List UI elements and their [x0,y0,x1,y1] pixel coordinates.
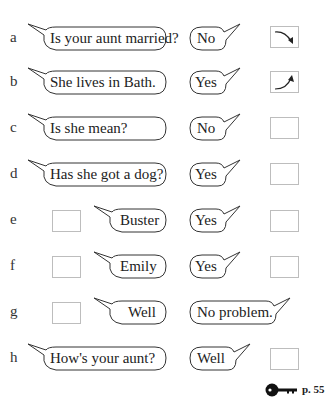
answer-box-left-f[interactable] [52,256,81,278]
answer-text-b: Yes [195,73,217,91]
question-text-c: Is she mean? [50,119,127,137]
row-letter-b: b [10,73,18,90]
falling-intonation-arrow-icon [271,27,298,47]
row-letter-g: g [10,303,18,320]
row-letter-a: a [10,29,17,46]
question-text-h: How's your aunt? [50,349,155,367]
answer-box-left-g[interactable] [52,302,81,324]
answer-box-right-c[interactable] [270,117,299,139]
question-text-a: Is your aunt married? [50,29,179,47]
answer-key-icon [265,382,299,398]
answer-text-h: Well [197,349,225,367]
row-letter-f: f [10,257,15,274]
question-text-d: Has she got a dog? [50,165,163,183]
answer-box-right-a[interactable] [270,26,299,48]
answer-text-c: No [197,119,215,137]
question-text-b: She lives in Bath. [50,73,156,91]
row-letter-d: d [10,165,18,182]
answer-text-g: No problem. [197,303,273,321]
answer-box-left-e[interactable] [52,210,81,232]
answer-box-right-e[interactable] [270,210,299,232]
rising-intonation-arrow-icon [271,72,298,92]
answer-text-d: Yes [195,165,217,183]
answer-box-right-h[interactable] [270,348,299,370]
row-letter-h: h [10,349,18,366]
answer-text-a: No [197,29,215,47]
question-text-g: Well [128,303,156,321]
question-text-e: Buster [120,211,159,229]
row-letter-c: c [10,119,17,136]
answer-box-right-f[interactable] [270,256,299,278]
row-letter-e: e [10,211,17,228]
page-reference[interactable]: p. 55 [302,383,325,395]
answer-text-f: Yes [195,257,217,275]
answer-box-right-d[interactable] [270,163,299,185]
question-text-f: Emily [120,257,157,275]
answer-text-e: Yes [195,211,217,229]
answer-box-right-b[interactable] [270,71,299,93]
